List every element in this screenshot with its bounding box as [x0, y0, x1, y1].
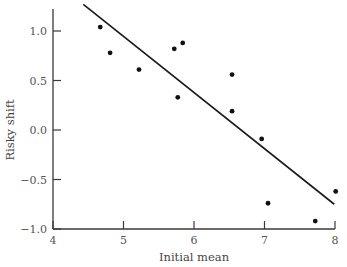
x-tick-label: 5 [120, 234, 127, 247]
data-point [108, 50, 113, 55]
y-tick-label: 0.5 [30, 75, 48, 88]
data-point [137, 67, 142, 72]
y-tick-label: 1.0 [30, 25, 48, 38]
plot-area [83, 4, 338, 223]
data-point [259, 137, 264, 142]
data-point [172, 46, 177, 51]
x-tick-label: 7 [261, 234, 268, 247]
data-point [98, 25, 103, 30]
data-point [313, 219, 318, 224]
y-tick-label: −0.5 [20, 174, 47, 187]
y-tick-label: 0.0 [30, 124, 48, 137]
y-tick-label: −1.0 [20, 223, 47, 236]
x-axis-title: Initial mean [159, 250, 230, 264]
data-point [180, 40, 185, 45]
x-tick-label: 8 [332, 234, 339, 247]
data-point [266, 201, 271, 206]
data-point [175, 95, 180, 100]
scatter-chart: 1.00.50.0−0.5−1.0 45678 Initial mean Ris… [0, 0, 347, 267]
x-tick-label: 6 [191, 234, 198, 247]
data-point [333, 189, 338, 194]
regression-line [83, 4, 334, 204]
data-point [230, 109, 235, 114]
x-tick-label: 4 [50, 234, 57, 247]
data-point [230, 72, 235, 77]
x-axis: 45678 [50, 221, 339, 247]
y-axis: 1.00.50.0−0.5−1.0 [20, 9, 61, 236]
y-axis-title: Risky shift [3, 99, 17, 161]
